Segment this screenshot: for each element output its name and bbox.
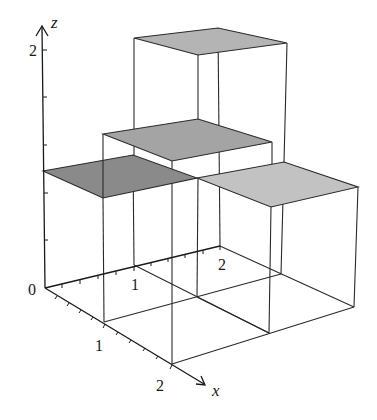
- z-tick-label-2: 2: [29, 42, 37, 59]
- square-top-high: [134, 28, 287, 55]
- x-tick-label-1: 1: [95, 337, 103, 354]
- axes: [36, 26, 220, 385]
- z-axis-label: z: [50, 13, 58, 32]
- x-axis-label: x: [211, 381, 220, 400]
- square-left: [43, 155, 197, 198]
- origin-label: 0: [28, 281, 36, 298]
- square-middle: [103, 119, 272, 161]
- surface-squares: [43, 28, 358, 207]
- z-axis: [42, 26, 45, 288]
- square-right: [197, 162, 358, 207]
- x-axis: [45, 288, 204, 384]
- diagram-canvas: 2 0 z 1 2 1 2 x: [0, 0, 377, 420]
- y-tick-label-2: 2: [218, 256, 226, 273]
- y-tick-label-1: 1: [131, 276, 139, 293]
- x-tick-label-2: 2: [156, 377, 164, 394]
